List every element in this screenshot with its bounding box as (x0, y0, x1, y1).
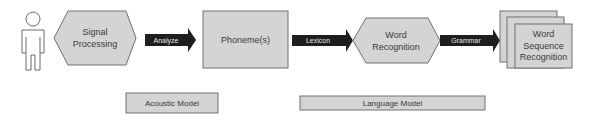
acoustic-model-label: Acoustic Model (145, 99, 199, 108)
phonemes-label: Phoneme(s) (221, 35, 270, 45)
language-model-label: Language Model (363, 99, 423, 108)
lexicon-label: Lexicon (306, 37, 330, 44)
word-recognition-node: Word Recognition (353, 18, 440, 63)
person-icon (22, 12, 44, 70)
word-recognition-label-line1: Word (385, 30, 406, 40)
speech-recognition-diagram: Signal Processing Analyze Phoneme(s) Lex… (0, 0, 590, 122)
word-sequence-label-line2: Sequence (523, 41, 564, 51)
signal-processing-label-line2: Processing (73, 39, 118, 49)
language-model-group: Language Model (300, 96, 485, 110)
lexicon-arrow: Lexicon (292, 29, 353, 52)
acoustic-model-group: Acoustic Model (126, 93, 218, 113)
analyze-arrow: Analyze (145, 28, 196, 52)
word-sequence-recognition-node: Word Sequence Recognition (500, 11, 572, 68)
signal-processing-label-line1: Signal (82, 27, 107, 37)
analyze-label: Analyze (154, 37, 179, 45)
phonemes-node: Phoneme(s) (203, 11, 288, 68)
grammar-arrow: Grammar (440, 29, 500, 52)
grammar-label: Grammar (451, 37, 481, 44)
word-sequence-label-line1: Word (533, 29, 554, 39)
signal-processing-node: Signal Processing (54, 11, 136, 65)
word-sequence-label-line3: Recognition (520, 52, 568, 62)
word-recognition-label-line2: Recognition (372, 42, 420, 52)
